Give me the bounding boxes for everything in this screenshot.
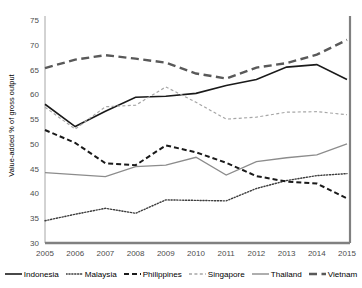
legend-item-singapore[interactable]: Singapore (189, 270, 245, 279)
y-axis-tick-label: 60 (30, 90, 39, 99)
x-axis-tick-label: 2015 (338, 249, 356, 258)
y-axis-tick-label: 40 (30, 189, 39, 198)
legend-item-indonesia[interactable]: Indonesia (5, 270, 59, 279)
x-axis-tick-label: 2009 (157, 249, 175, 258)
x-axis-tick-label: 2006 (66, 249, 84, 258)
y-axis-tick-label: 50 (30, 140, 39, 149)
legend-swatch-singapore-icon (189, 270, 206, 278)
x-axis-tick-label: 2011 (218, 249, 236, 258)
series-line-thailand (45, 144, 347, 177)
y-axis-tick-label: 30 (30, 239, 39, 248)
x-axis-tick-label: 2013 (278, 249, 296, 258)
x-axis-tick-label: 2012 (248, 249, 266, 258)
series-line-philippines (45, 130, 347, 198)
chart-legend: IndonesiaMalaysiaPhilippinesSingaporeTha… (0, 264, 362, 284)
y-axis-tick-label: 45 (30, 165, 39, 174)
x-axis-tick-label: 2005 (36, 249, 54, 258)
legend-label: Indonesia (24, 270, 59, 279)
legend-item-vietnam[interactable]: Vietnam (309, 270, 358, 279)
legend-swatch-malaysia-icon (66, 270, 83, 278)
line-chart: Value-added % of gross output 3035404550… (0, 0, 362, 288)
y-axis-tick-label: 55 (30, 115, 39, 124)
legend-swatch-vietnam-icon (309, 270, 326, 278)
legend-item-malaysia[interactable]: Malaysia (66, 270, 117, 279)
legend-item-philippines[interactable]: Philippines (124, 270, 182, 279)
y-axis-tick-label: 75 (30, 16, 39, 25)
legend-item-thailand[interactable]: Thailand (252, 270, 302, 279)
legend-swatch-philippines-icon (124, 270, 141, 278)
series-line-vietnam (45, 40, 347, 79)
x-axis-tick-label: 2008 (127, 249, 145, 258)
y-axis-tick-label: 35 (30, 214, 39, 223)
legend-label: Malaysia (85, 270, 117, 279)
legend-label: Philippines (143, 270, 182, 279)
legend-label: Singapore (208, 270, 245, 279)
legend-swatch-indonesia-icon (5, 270, 22, 278)
y-axis-tick-label: 70 (30, 41, 39, 50)
x-axis-tick-label: 2014 (308, 249, 326, 258)
legend-swatch-thailand-icon (252, 270, 269, 278)
series-line-malaysia (45, 174, 347, 221)
y-axis-tick-label: 65 (30, 66, 39, 75)
plot-area: 3035404550556065707520052006200720082009… (0, 0, 362, 264)
legend-label: Vietnam (328, 270, 358, 279)
x-axis-tick-label: 2010 (187, 249, 205, 258)
legend-label: Thailand (271, 270, 302, 279)
x-axis-tick-label: 2007 (97, 249, 115, 258)
